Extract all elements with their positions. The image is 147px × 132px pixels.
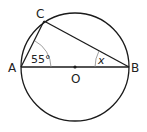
label-O: O (71, 72, 80, 86)
angle-label-B: x (97, 54, 105, 67)
angle-label-A: 55° (31, 53, 51, 66)
circle-diagram: A B C O 55° x (0, 0, 147, 132)
label-A: A (8, 61, 17, 75)
label-C: C (36, 7, 44, 21)
center-point-O (73, 65, 76, 68)
label-B: B (131, 61, 139, 75)
chord-CB (44, 21, 129, 67)
